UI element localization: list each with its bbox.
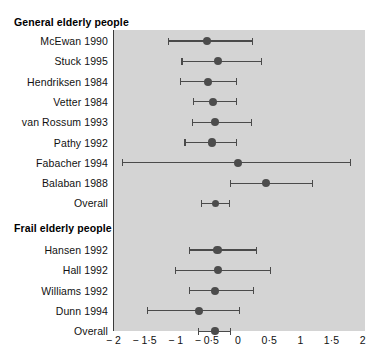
x-axis-tick-label: − 1·5 xyxy=(132,334,156,346)
x-axis-tick-label: 0 xyxy=(235,334,241,346)
x-axis-tick-label: − 2 xyxy=(106,334,121,346)
x-axis-tick-label: − 1 xyxy=(168,334,183,346)
x-axis: − 2− 1·5− 1− 0·500·511·52 xyxy=(0,0,376,353)
x-axis-tick-label: 2 xyxy=(360,334,366,346)
forest-plot-figure: General elderly peopleMcEwan 1990Stuck 1… xyxy=(0,0,376,353)
x-axis-tick-label: − 0·5 xyxy=(195,334,219,346)
x-axis-tick-label: 1·5 xyxy=(324,334,339,346)
x-axis-tick-label: 0·5 xyxy=(262,334,277,346)
x-axis-tick-label: 1 xyxy=(297,334,303,346)
